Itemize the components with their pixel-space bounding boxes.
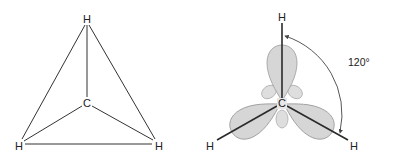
- left-panel-tetrahedron: H C H H: [15, 13, 163, 152]
- atom-h-top-left: H: [83, 13, 91, 25]
- atom-h-bottom-right-left: H: [155, 140, 163, 152]
- bond-top-to-bottom-left: [22, 25, 85, 139]
- atom-h-bottom-right-right: H: [350, 140, 358, 152]
- small-lobe-bottom: [276, 110, 288, 128]
- atom-c-left: C: [83, 97, 91, 109]
- atom-h-bottom-left-right: H: [206, 140, 214, 152]
- atom-h-top-right: H: [278, 11, 286, 23]
- bond-carbon-to-bottom-right: [92, 106, 153, 140]
- atom-h-bottom-left-left: H: [15, 140, 23, 152]
- molecular-geometry-diagram: H C H H 120° H C H H: [0, 0, 393, 159]
- bond-top-to-bottom-right: [89, 25, 155, 139]
- right-panel-orbitals: 120° H C H H: [206, 11, 370, 152]
- atom-c-right: C: [278, 97, 286, 109]
- angle-label: 120°: [348, 56, 370, 68]
- bond-carbon-to-bottom-left: [24, 106, 82, 141]
